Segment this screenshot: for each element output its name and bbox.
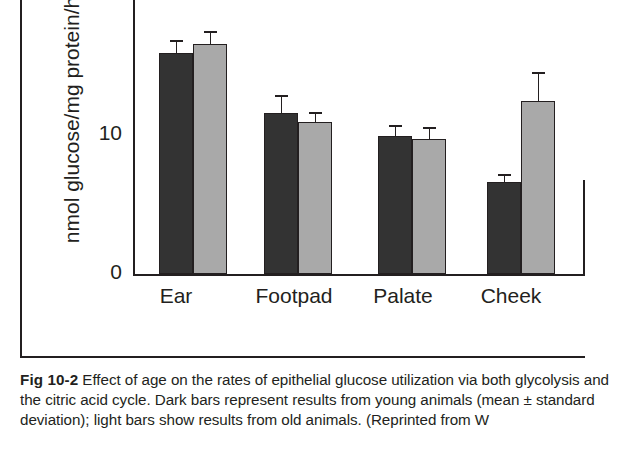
bar-cheek-dark: [487, 182, 521, 274]
figure-number: Fig 10-2: [20, 371, 78, 388]
error-bar-cheek-light: [538, 72, 539, 100]
x-tick-label-palate: Palate: [360, 284, 446, 308]
error-bar-cap-palate-dark: [389, 125, 402, 127]
bar-footpad-dark: [264, 113, 298, 274]
error-bar-cap-cheek-light: [532, 72, 545, 74]
x-tick-label-cheek: Cheek: [470, 284, 552, 308]
error-bar-cap-cheek-dark: [498, 174, 511, 176]
figure-caption: Fig 10-2 Effect of age on the rates of e…: [20, 370, 610, 431]
bar-ear-light: [193, 44, 227, 274]
figure-caption-text: Effect of age on the rates of epithelial…: [20, 371, 609, 428]
x-tick-label-ear: Ear: [142, 284, 210, 308]
bar-chart: nmol glucose/mg protein/h 10 0 Ear Footp…: [0, 0, 625, 300]
bar-palate-dark: [378, 136, 412, 274]
error-bar-cap-footpad-light: [309, 112, 322, 114]
error-bar-cap-ear-dark: [170, 40, 183, 42]
x-tick-label-footpad: Footpad: [246, 284, 342, 308]
bar-footpad-light: [298, 122, 332, 274]
error-bar-cap-footpad-dark: [275, 95, 288, 97]
bars-layer: [0, 0, 625, 300]
figure-root: nmol glucose/mg protein/h 10 0 Ear Footp…: [0, 0, 625, 459]
error-bar-footpad-dark: [281, 95, 282, 113]
bar-palate-light: [412, 139, 446, 274]
error-bar-cap-palate-light: [423, 127, 436, 129]
bar-ear-dark: [159, 53, 193, 274]
error-bar-cap-ear-light: [204, 31, 217, 33]
bar-cheek-light: [521, 101, 555, 274]
